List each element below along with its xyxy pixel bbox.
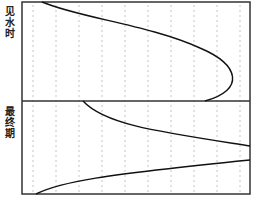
- bottom-upper-front-curve: [83, 101, 250, 146]
- top-water-front-curve: [42, 2, 233, 101]
- diagram-canvas: [0, 0, 258, 211]
- bottom-lower-front-curve: [36, 160, 250, 194]
